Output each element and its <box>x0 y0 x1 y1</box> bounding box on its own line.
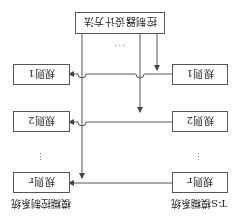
ts-rule-2: 规则2 <box>172 111 228 132</box>
fc-rules-ellipsis: ⋮ <box>39 154 45 158</box>
ts-rules-ellipsis: ⋮ <box>197 154 203 158</box>
ts-system-title: T-S模糊系统 <box>171 197 227 212</box>
controller-ellipsis: ··· <box>113 40 125 50</box>
ts-rule-1-label: 规则1 <box>186 67 214 82</box>
fc-rule-2: 规则2 <box>13 111 70 132</box>
ts-rule-1: 规则1 <box>172 64 228 85</box>
fc-rule-r: 规则r <box>13 172 70 193</box>
fuzzy-control-design-figure: 控制器设计方法 ··· T-S模糊系统 规则r ⋮ 规则2 规则1 模糊控制系统… <box>0 0 237 216</box>
controller-design-box: 控制器设计方法 <box>75 12 165 34</box>
ts-rule-2-label: 规则2 <box>186 114 214 129</box>
fc-rule-2-label: 规则2 <box>28 114 56 129</box>
diagram-canvas: 控制器设计方法 ··· T-S模糊系统 规则r ⋮ 规则2 规则1 模糊控制系统… <box>0 0 237 216</box>
fc-rule-1: 规则1 <box>13 64 70 85</box>
ts-rule-r: 规则r <box>172 172 228 193</box>
ts-rule-r-label: 规则r <box>187 175 213 190</box>
controller-design-label: 控制器设计方法 <box>83 16 157 31</box>
fc-rule-1-label: 规则1 <box>28 67 56 82</box>
fuzzy-control-system-title: 模糊控制系统 <box>9 197 73 212</box>
fc-rule-r-label: 规则r <box>28 175 54 190</box>
